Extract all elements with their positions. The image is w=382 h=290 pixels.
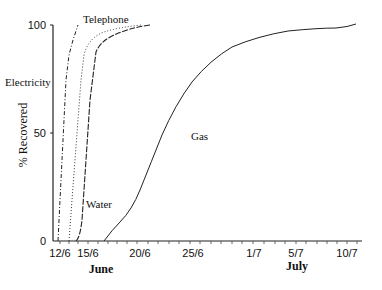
x-tick-label-1-7: 1/7 — [246, 247, 261, 259]
x-tick-label-20-6: 20/6 — [129, 247, 150, 259]
label-telephone: Telephone — [83, 13, 129, 25]
x-tick-label-10-7: 10/7 — [336, 247, 357, 259]
y-tick-label-50: 50 — [34, 127, 46, 139]
x-month-july: July — [286, 259, 308, 273]
label-water: Water — [86, 198, 112, 210]
x-tick-label-25-6: 25/6 — [182, 247, 203, 259]
y-axis-title: % Recovered — [16, 103, 30, 167]
series-gas — [104, 24, 356, 241]
x-month-june: June — [89, 262, 114, 276]
y-tick-label-100: 100 — [28, 19, 46, 31]
label-gas: Gas — [191, 130, 208, 142]
series-electricity — [58, 25, 78, 241]
x-tick-label-5-7: 5/7 — [288, 247, 303, 259]
y-tick-label-0: 0 — [40, 235, 46, 247]
label-electricity: Electricity — [5, 76, 51, 88]
x-tick-label-12-6: 12/6 — [49, 247, 70, 259]
x-tick-label-15-6: 15/6 — [77, 247, 98, 259]
recovery-chart: 100 50 0 % Recovered 12/6 15/6 20/6 25/6… — [0, 0, 382, 290]
